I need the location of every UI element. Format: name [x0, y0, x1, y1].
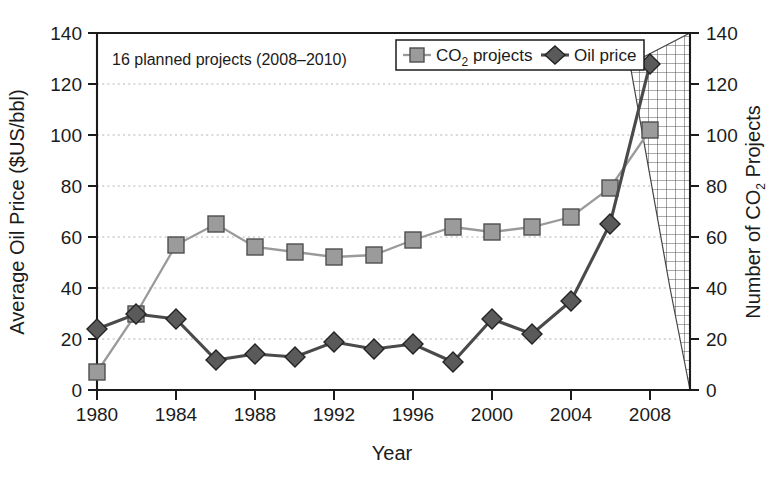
annotation-planned-projects: 16 planned projects (2008–2010) — [112, 51, 347, 68]
data-point-co2-2004 — [563, 209, 579, 225]
chart-svg: 140 120 100 80 60 40 20 0 140 120 100 80… — [0, 0, 780, 478]
ylabel-left-20: 20 — [61, 329, 82, 350]
xlabel-1988: 1988 — [234, 404, 276, 425]
data-point-co2-1990 — [287, 244, 303, 260]
data-point-co2-1988 — [247, 239, 263, 255]
legend: CO2 projects Oil price — [396, 40, 644, 70]
data-point-co2-1996 — [405, 232, 421, 248]
legend-label-co2-pre: CO — [436, 46, 462, 65]
ylabel-right-80: 80 — [706, 176, 727, 197]
ylabel-right-40: 40 — [706, 278, 727, 299]
data-point-co2-2000 — [484, 224, 500, 240]
xlabel-2008: 2008 — [629, 404, 671, 425]
xlabel-1992: 1992 — [313, 404, 355, 425]
data-point-co2-1984 — [168, 237, 184, 253]
xlabel-1980: 1980 — [76, 404, 118, 425]
ylabel-right-0: 0 — [706, 380, 717, 401]
x-axis-title: Year — [372, 442, 413, 464]
ylabel-left-100: 100 — [50, 125, 82, 146]
ylabel-right-140: 140 — [706, 23, 738, 44]
ylabel-right-100: 100 — [706, 125, 738, 146]
data-point-co2-1980 — [89, 364, 105, 380]
legend-marker-co2-projects — [410, 48, 424, 62]
y-axis-title-right-pre: Number of CO — [742, 190, 764, 319]
data-point-co2-1986 — [208, 216, 224, 232]
y-axis-title-left: Average Oil Price ($US/bbl) — [6, 89, 28, 334]
ylabel-right-60: 60 — [706, 227, 727, 248]
ylabel-left-120: 120 — [50, 74, 82, 95]
ylabel-left-60: 60 — [61, 227, 82, 248]
ylabel-right-120: 120 — [706, 74, 738, 95]
ylabel-right-20: 20 — [706, 329, 727, 350]
ylabel-left-40: 40 — [61, 278, 82, 299]
data-point-co2-1998 — [445, 219, 461, 235]
legend-label-co2-post: projects — [468, 46, 532, 65]
xlabel-2004: 2004 — [550, 404, 593, 425]
xlabel-2000: 2000 — [471, 404, 513, 425]
data-point-co2-1994 — [366, 247, 382, 263]
data-point-co2-1992 — [326, 249, 342, 265]
data-point-co2-2002 — [524, 219, 540, 235]
data-point-co2-2008 — [642, 122, 658, 138]
xlabel-1984: 1984 — [155, 404, 198, 425]
ylabel-left-0: 0 — [71, 380, 82, 401]
ylabel-left-140: 140 — [50, 23, 82, 44]
ylabel-left-80: 80 — [61, 176, 82, 197]
figure-root: 140 120 100 80 60 40 20 0 140 120 100 80… — [0, 0, 780, 478]
y-axis-title-right-post: Projects — [742, 105, 764, 183]
data-point-co2-2006 — [602, 180, 618, 196]
legend-label-oil-price: Oil price — [574, 46, 636, 65]
xlabel-1996: 1996 — [392, 404, 434, 425]
